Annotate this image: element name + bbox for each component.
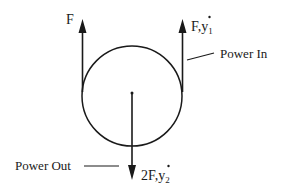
left-force-label: F xyxy=(66,12,74,27)
power-out-label: Power Out xyxy=(15,158,71,173)
bottom-force-label: 2F,y2 xyxy=(141,165,170,185)
svg-text:2F,y2: 2F,y2 xyxy=(141,168,170,185)
power-in-leader xyxy=(187,53,214,60)
right-force-label: F,y1 xyxy=(191,16,213,36)
bottom-velocity-dot xyxy=(167,165,169,167)
right-velocity-dot xyxy=(208,16,210,18)
svg-text:F,y1: F,y1 xyxy=(191,19,213,36)
power-in-label: Power In xyxy=(220,46,268,61)
pulley-diagram: F F,y1 Power In 2F,y2 Power Out xyxy=(0,0,288,189)
bottom-force-arrow xyxy=(128,93,136,180)
left-force-arrow xyxy=(79,19,87,92)
